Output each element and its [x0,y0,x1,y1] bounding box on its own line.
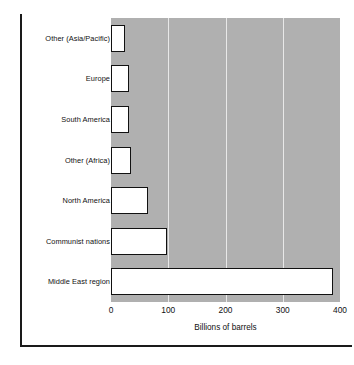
gridline [226,18,227,302]
bar [111,106,129,133]
bar [111,25,125,52]
bar [111,268,333,295]
gridline [168,18,169,302]
category-label: Other (Africa) [26,156,110,165]
category-label: Other (Asia/Pacific) [26,34,110,43]
x-tick-label: 300 [276,305,290,316]
category-label: North America [26,196,110,205]
bar [111,187,148,214]
x-axis-title: Billions of barrels [111,322,340,333]
category-label: Middle East region [26,277,110,286]
bar [111,228,167,255]
x-tick-label: 200 [219,305,233,316]
category-label: South America [26,115,110,124]
x-tick-label: 100 [161,305,175,316]
plot-area [111,18,340,302]
category-axis-labels: Other (Asia/Pacific)EuropeSouth AmericaO… [26,18,110,302]
bar [111,65,129,92]
bar [111,147,131,174]
x-tick-label: 400 [333,305,347,316]
category-label: Communist nations [26,237,110,246]
frame-bottom-rule [20,345,352,347]
x-tick-label: 0 [109,305,114,316]
gridline [283,18,284,302]
frame-left-rule [20,14,22,347]
x-axis-tick-labels: 0100200300400 [0,305,354,319]
category-label: Europe [26,74,110,83]
bar-chart-figure: Other (Asia/Pacific)EuropeSouth AmericaO… [0,0,354,365]
